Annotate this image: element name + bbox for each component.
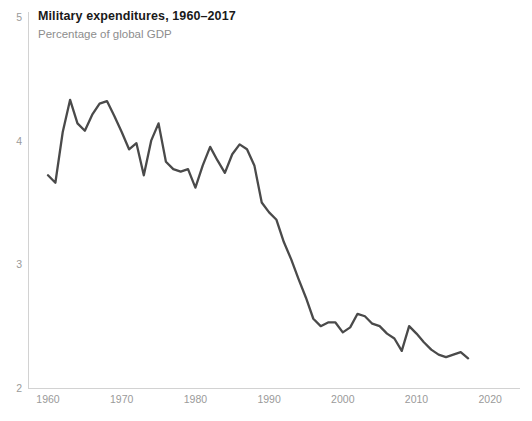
x-tick-label: 2000	[331, 393, 355, 405]
x-tick-label: 2010	[405, 393, 429, 405]
x-tick-label: 1970	[110, 393, 134, 405]
military-expenditure-line	[48, 100, 468, 358]
x-tick-label: 1990	[257, 393, 281, 405]
x-tick-label: 2020	[479, 393, 503, 405]
chart-plot-area: 2345 1960197019801990200020102020	[0, 0, 532, 421]
y-axis-tick-labels: 2345	[16, 11, 22, 394]
chart-figure: Military expenditures, 1960–2017 Percent…	[0, 0, 532, 421]
y-tick-label: 4	[16, 135, 22, 147]
y-tick-label: 2	[16, 382, 22, 394]
x-axis-tick-labels: 1960197019801990200020102020	[36, 393, 502, 405]
x-tick-label: 1960	[36, 393, 60, 405]
x-tick-label: 1980	[184, 393, 208, 405]
y-tick-label: 5	[16, 11, 22, 23]
y-tick-label: 3	[16, 258, 22, 270]
